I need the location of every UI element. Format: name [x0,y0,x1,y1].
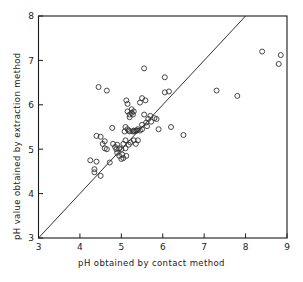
svg-text:6: 6 [160,242,166,252]
x-axis-label: pH obtained by contact method [0,258,303,268]
svg-text:7: 7 [28,56,34,66]
svg-text:7: 7 [201,242,207,252]
scatter-plot-figure: 3456789345678 pH obtained by contact met… [0,0,303,282]
svg-text:5: 5 [118,242,124,252]
svg-text:4: 4 [28,189,34,199]
axes-frame [39,16,288,238]
tick-marks [39,16,288,238]
svg-text:6: 6 [28,100,34,110]
svg-text:8: 8 [28,11,34,21]
svg-text:3: 3 [36,242,42,252]
svg-text:5: 5 [28,145,34,155]
plot-canvas: 3456789345678 [0,0,303,282]
svg-text:3: 3 [28,233,34,243]
y-axis-label: pH value obtained by extraction method [12,52,22,240]
svg-text:9: 9 [284,242,290,252]
svg-text:4: 4 [77,242,83,252]
svg-text:8: 8 [243,242,249,252]
data-point-series [88,49,284,178]
